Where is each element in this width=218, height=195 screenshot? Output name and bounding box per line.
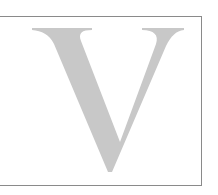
v-icon: V xyxy=(28,24,188,176)
letter-v-glyph: V xyxy=(28,24,188,176)
